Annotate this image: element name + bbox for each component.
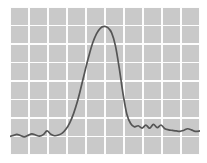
signal-trace [10,26,200,136]
signal-trace-layer [10,7,200,155]
chart-figure [0,0,207,163]
plot-area [10,7,200,155]
